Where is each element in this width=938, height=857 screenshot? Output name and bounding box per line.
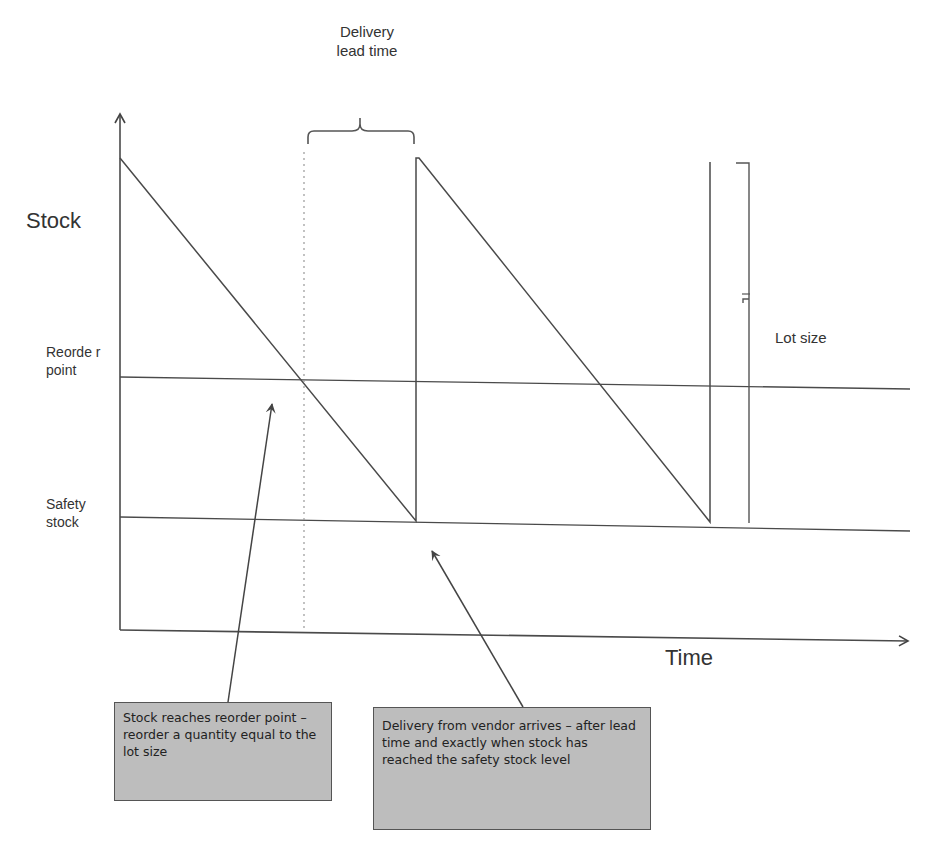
safety-stock-label: Safety stock — [46, 495, 86, 531]
delivery-lead-time-label: Delivery lead time — [332, 22, 402, 60]
safety-stock-line — [120, 517, 910, 531]
safety-label-line1: Safety — [46, 495, 86, 513]
delivery-label-line1: Delivery — [332, 22, 402, 41]
stock-level-sawtooth — [120, 158, 710, 522]
lead-time-bracket-icon — [308, 118, 414, 144]
callout-delivery-arrives: Delivery from vendor arrives – after lea… — [373, 707, 651, 830]
lot-size-bracket-icon — [736, 163, 749, 523]
callout-arrow-delivery — [432, 551, 523, 707]
lot-size-label: Lot size — [775, 329, 827, 346]
callout-reorder-point: Stock reaches reorder point – reorder a … — [114, 702, 332, 801]
reorder-point-line — [120, 377, 910, 389]
delivery-label-line2: lead time — [332, 41, 402, 60]
callout-arrow-reorder — [228, 404, 272, 702]
y-axis-label: Stock — [26, 208, 81, 234]
reorder-point-label: Reorde r point — [46, 343, 102, 379]
x-axis-label: Time — [665, 645, 713, 671]
safety-label-line2: stock — [46, 513, 86, 531]
